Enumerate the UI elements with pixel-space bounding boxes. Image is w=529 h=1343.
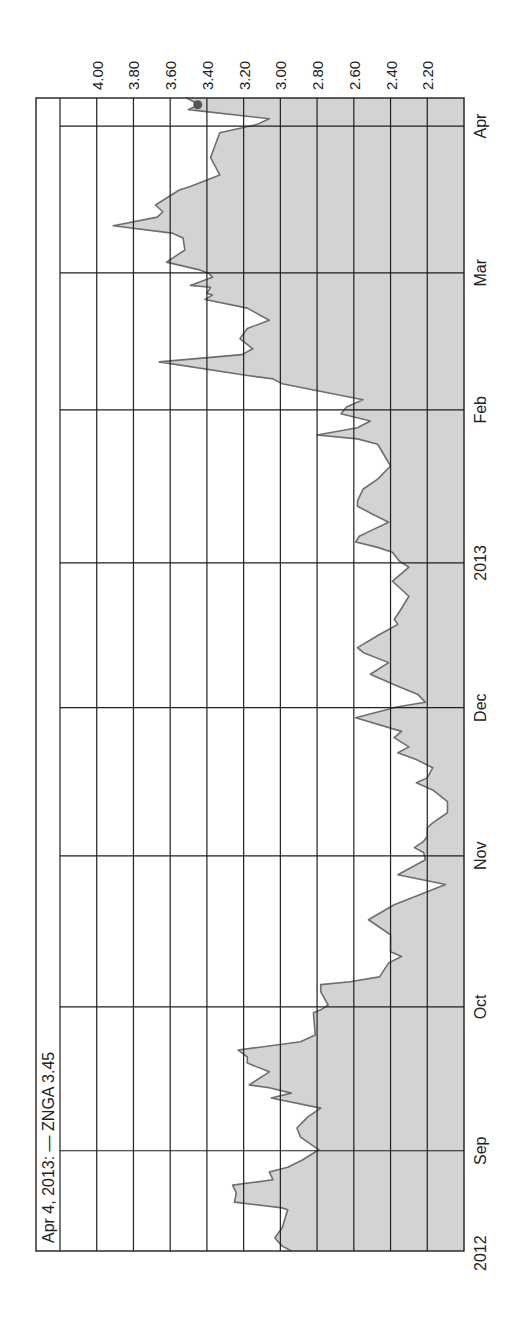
value-tick-label: 4.00: [89, 61, 106, 90]
value-tick-label: 3.00: [272, 61, 289, 90]
time-tick-label: Feb: [472, 396, 489, 424]
value-tick-label: 3.60: [162, 61, 179, 90]
time-tick-label: Nov: [472, 842, 489, 870]
value-tick-label: 3.20: [236, 61, 253, 90]
time-tick-label: Oct: [472, 994, 489, 1019]
time-tick-label: Sep: [472, 1136, 489, 1165]
value-tick-label: 3.80: [125, 61, 142, 90]
time-tick-label: Apr: [472, 113, 489, 139]
time-tick-label: Mar: [472, 258, 489, 286]
time-tick-label: Dec: [472, 693, 489, 721]
value-tick-label: 2.20: [419, 61, 436, 90]
zynga-stock-chart: Apr 4, 2013: — ZNGA 3.45 4.003.803.603.4…: [0, 0, 529, 1343]
time-tick-label: 2013: [472, 545, 489, 581]
value-tick-label: 2.60: [346, 61, 363, 90]
last-price-dot: [193, 100, 202, 109]
value-tick-label: 2.80: [309, 61, 326, 90]
header-title: Apr 4, 2013: — ZNGA 3.45: [40, 1052, 57, 1243]
header-box: Apr 4, 2013: — ZNGA 3.45: [40, 1052, 57, 1243]
value-tick-label: 3.40: [199, 61, 216, 90]
time-tick-label: 2012: [472, 1235, 489, 1271]
value-tick-label: 2.40: [383, 61, 400, 90]
